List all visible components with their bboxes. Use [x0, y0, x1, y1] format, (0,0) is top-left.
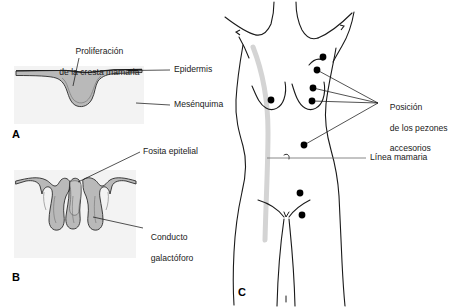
- label-lactiferous-duct: Conducto galactóforo: [146, 222, 193, 263]
- label-mesenchyme: Mesénquima: [174, 99, 223, 109]
- torso-right-contour: [325, 48, 345, 306]
- accessory-nipple-dots: [268, 54, 327, 219]
- dot-inguinal-lower: [299, 212, 306, 219]
- epithelial-pit: [70, 181, 81, 216]
- label-lactiferous-duct-line2: galactóforo: [151, 253, 194, 263]
- label-accessory-nipple-positions: Posición de los pezones accesorios: [385, 92, 448, 153]
- panel-letter-c: C: [238, 286, 246, 298]
- pubic-mark: [284, 212, 289, 217]
- label-lactiferous-duct-line1: Conducto: [151, 232, 188, 242]
- dot-upper-thoracic: [314, 67, 321, 74]
- dot-nipple-right: [309, 98, 316, 105]
- label-accessory-nipples-line2: de los pezones: [390, 123, 448, 133]
- label-mammary-ridge-line2: de la cresta mamaria: [59, 67, 139, 77]
- right-shoulder-top: [318, 13, 352, 38]
- left-shoulder-line: [225, 17, 256, 35]
- dot-nipple-left: [268, 97, 275, 104]
- right-leg-inner: [289, 219, 295, 306]
- dot-inguinal-upper: [297, 190, 304, 197]
- right-axilla-hook: [309, 59, 323, 65]
- leader-lines-accessory-nipples: [304, 70, 378, 145]
- label-epidermis: Epidermis: [174, 64, 212, 74]
- right-arm-outer: [333, 12, 354, 62]
- label-accessory-nipples-line1: Posición: [390, 102, 422, 112]
- left-leg-inner: [277, 219, 284, 306]
- dot-medial-breast: [310, 85, 317, 92]
- shoulder-arrow-right: [340, 25, 344, 30]
- panel-b-group: [14, 152, 143, 258]
- panel-letter-a: A: [12, 128, 20, 140]
- dot-abdominal: [301, 142, 308, 149]
- right-breast-contour: [292, 82, 325, 110]
- panel-c-group: [225, 2, 378, 306]
- left-arm-inner: [239, 37, 249, 58]
- dot-axillary: [320, 54, 327, 61]
- panel-letter-b: B: [12, 271, 20, 283]
- label-mammary-ridge-line1: Proliferación: [76, 46, 124, 56]
- label-mammary-ridge-proliferation: Proliferación de la cresta mamaria: [42, 36, 152, 77]
- mammary-line-band: [253, 47, 268, 240]
- right-shoulder-line: [296, 2, 318, 39]
- label-mammary-line: Línea mamaria: [370, 152, 427, 162]
- shoulder-arrow-left: [236, 30, 240, 35]
- left-armpit-curve: [256, 2, 274, 35]
- label-epithelial-pit: Fosita epitelial: [143, 146, 198, 156]
- groin-left-fold: [258, 200, 284, 217]
- torso-left-contour: [233, 45, 245, 305]
